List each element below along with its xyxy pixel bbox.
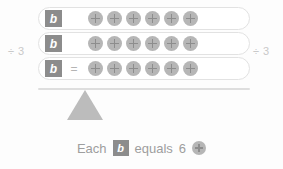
unit-counter-icon — [107, 11, 122, 26]
variable-tile-b: b — [45, 10, 62, 27]
caption-variable-tile-b: b — [113, 140, 129, 156]
variable-tile-b: b — [45, 35, 62, 52]
equation-rows: b b b = — [38, 7, 250, 82]
unit-counter-icon — [107, 61, 122, 76]
unit-counter-icon — [88, 61, 103, 76]
divide-operator-left: ÷ 3 — [8, 44, 25, 58]
variable-tile-b: b — [45, 60, 62, 77]
equation-row: b — [38, 7, 250, 30]
unit-counter-icon — [183, 61, 198, 76]
equation-row: b = — [38, 57, 250, 80]
unit-counter-icon — [183, 11, 198, 26]
counter-group — [88, 61, 198, 76]
caption: Each b equals 6 — [0, 140, 283, 156]
equation-row: b — [38, 32, 250, 55]
unit-counter-icon — [88, 36, 103, 51]
counter-group — [88, 36, 198, 51]
caption-number: 6 — [179, 142, 186, 155]
unit-counter-icon — [145, 11, 160, 26]
unit-counter-icon — [126, 11, 141, 26]
unit-counter-icon — [192, 141, 206, 155]
caption-word-each: Each — [77, 142, 107, 155]
unit-counter-icon — [164, 61, 179, 76]
equals-sign: = — [66, 62, 82, 76]
unit-counter-icon — [88, 11, 103, 26]
unit-counter-icon — [145, 36, 160, 51]
unit-counter-icon — [126, 61, 141, 76]
unit-counter-icon — [126, 36, 141, 51]
caption-word-equals: equals — [135, 142, 173, 155]
balance-model-figure: ÷ 3 ÷ 3 b b — [0, 0, 283, 169]
unit-counter-icon — [145, 61, 160, 76]
unit-counter-icon — [164, 36, 179, 51]
unit-counter-icon — [183, 36, 198, 51]
unit-counter-icon — [164, 11, 179, 26]
counter-group — [88, 11, 198, 26]
unit-counter-icon — [107, 36, 122, 51]
divide-operator-right: ÷ 3 — [253, 44, 270, 58]
fulcrum-triangle-icon — [67, 90, 103, 120]
